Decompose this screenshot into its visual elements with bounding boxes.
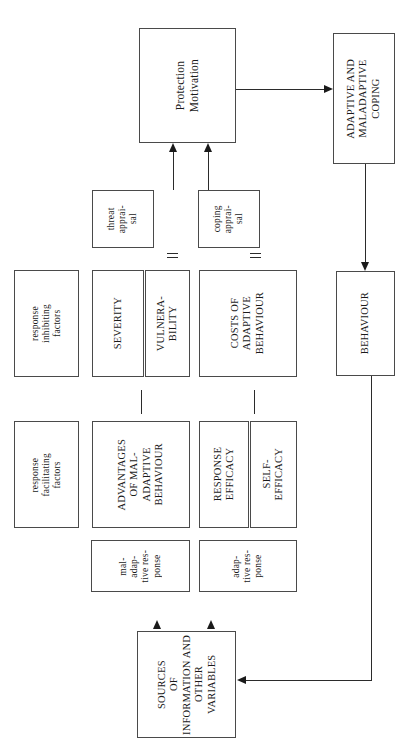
node-adaptive-response: adap- tive res- ponse bbox=[199, 540, 297, 592]
node-maladaptive-response-label: mal- adap- tive res- ponse bbox=[118, 550, 163, 583]
connector-behaviour-feedback-horizontal bbox=[246, 680, 372, 681]
node-threat-appraisal-label: threat apprai- sal bbox=[106, 205, 140, 233]
node-response-inhibiting-factors-label: response inhibiting factors bbox=[30, 304, 64, 343]
node-behaviour-label: BEHAVIOUR bbox=[359, 292, 371, 354]
node-coping-appraisal-label: coping apprai- sal bbox=[212, 205, 246, 233]
node-response-efficacy-label: RESPONSE EFFICACY bbox=[212, 447, 237, 501]
connector-severity-group-to-advantages bbox=[141, 390, 142, 414]
node-threat-appraisal: threat apprai- sal bbox=[92, 190, 154, 248]
connector-threat-appraisal-to-protection-motivation bbox=[173, 152, 174, 190]
node-advantages-of-maladaptive-behaviour: ADVANTAGES OF MAL- ADAPTIVE BEHAVIOUR bbox=[92, 421, 190, 528]
node-coping-appraisal: coping apprai- sal bbox=[198, 190, 260, 248]
connector-coping-to-behaviour bbox=[365, 164, 366, 262]
node-protection-motivation: Protection Motivation bbox=[139, 28, 236, 143]
equals-connector-coping-appraisal bbox=[250, 253, 261, 258]
equals-connector-threat-appraisal bbox=[167, 253, 178, 258]
connector-behaviour-feedback-vertical bbox=[371, 376, 372, 680]
diagram-canvas: Protection Motivation ADAPTIVE AND MALAD… bbox=[0, 0, 419, 745]
arrowhead-coping-to-behaviour bbox=[361, 262, 369, 271]
arrowhead-behaviour-to-sources-of-information bbox=[237, 676, 246, 684]
arrowhead-sources-to-adaptive-response bbox=[207, 620, 215, 629]
node-sources-of-information: SOURCES OF INFORMATION AND OTHER VARIABL… bbox=[137, 631, 236, 738]
node-advantages-of-maladaptive-behaviour-label: ADVANTAGES OF MAL- ADAPTIVE BEHAVIOUR bbox=[116, 439, 166, 511]
node-response-inhibiting-factors: response inhibiting factors bbox=[14, 270, 79, 377]
node-adaptive-response-label: adap- tive res- ponse bbox=[231, 550, 265, 583]
node-self-efficacy: SELF- EFFICACY bbox=[250, 421, 297, 528]
arrowhead-coping-appraisal-to-protection-motivation bbox=[204, 143, 212, 152]
node-sources-of-information-label: SOURCES OF INFORMATION AND OTHER VARIABL… bbox=[156, 632, 218, 737]
node-response-facilitating-factors-label: response facilitating factors bbox=[30, 453, 64, 497]
node-costs-of-adaptive-behaviour: COSTS OF ADAPTIVE BEHAVIOUR bbox=[199, 270, 297, 377]
node-maladaptive-response: mal- adap- tive res- ponse bbox=[91, 540, 190, 592]
node-severity-label: SEVERITY bbox=[112, 297, 124, 349]
node-adaptive-maladaptive-coping-label: ADAPTIVE AND MALADAPTIVE COPING bbox=[345, 59, 382, 139]
node-response-efficacy: RESPONSE EFFICACY bbox=[199, 421, 249, 528]
node-severity: SEVERITY bbox=[92, 270, 144, 377]
arrowhead-sources-to-maladaptive-response bbox=[153, 620, 161, 629]
node-behaviour: BEHAVIOUR bbox=[336, 271, 395, 376]
arrowhead-threat-appraisal-to-protection-motivation bbox=[169, 143, 177, 152]
connector-costs-to-efficacy bbox=[254, 390, 255, 414]
node-protection-motivation-label: Protection Motivation bbox=[174, 59, 201, 112]
connector-protection-motivation-to-coping bbox=[236, 89, 324, 90]
node-costs-of-adaptive-behaviour-label: COSTS OF ADAPTIVE BEHAVIOUR bbox=[229, 292, 266, 354]
node-vulnerability-label: VULNERA- BILITY bbox=[155, 296, 180, 351]
node-vulnerability: VULNERA- BILITY bbox=[145, 270, 190, 377]
arrowhead-protection-motivation-to-coping bbox=[324, 85, 333, 93]
node-self-efficacy-label: SELF- EFFICACY bbox=[261, 448, 286, 500]
node-adaptive-maladaptive-coping: ADAPTIVE AND MALADAPTIVE COPING bbox=[333, 33, 395, 164]
connector-coping-appraisal-to-protection-motivation bbox=[208, 152, 209, 190]
node-response-facilitating-factors: response facilitating factors bbox=[14, 421, 79, 528]
